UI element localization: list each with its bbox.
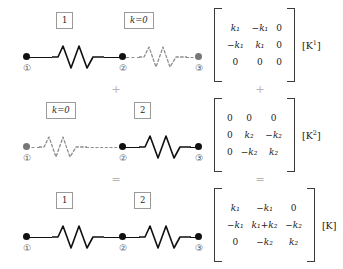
spring-coil-active xyxy=(52,42,104,72)
node-label-3: ③ xyxy=(191,154,207,163)
stiffness-matrix-element-1: k₁ −k₁ 0 −k₁ k₁ 0 0 0 0 [K1] xyxy=(214,8,321,82)
matrix-label-element-2: [K2] xyxy=(302,129,321,141)
matrix-row: 0 −k₂ k₂ xyxy=(223,234,306,251)
matrix-cell: −k₂ xyxy=(261,127,286,144)
spring-stiffness-assembly-figure: 1 k=0 ① ② ③ xyxy=(0,0,343,269)
matrix-cell: k₂ xyxy=(237,127,262,144)
node-label-2: ② xyxy=(115,64,131,73)
bracket-right-icon xyxy=(287,98,295,172)
element-box-left: 1 xyxy=(56,12,73,29)
bracket-right-icon xyxy=(307,188,315,262)
matrix-cell: k₂ xyxy=(261,144,286,161)
matrix-label-global: [K] xyxy=(322,219,337,231)
matrix-cell: −k₂ xyxy=(237,144,262,161)
matrix-label-element-1: [K1] xyxy=(302,39,321,51)
matrix-cell: 0 xyxy=(223,110,237,127)
matrix-label-close: ] xyxy=(333,220,337,231)
bracket-left-icon xyxy=(214,98,222,172)
matrix-cell: −k₁ xyxy=(248,200,282,217)
assembly-row-global: 1 2 ① ② ③ xyxy=(0,186,343,264)
stiffness-matrix-global: k₁ −k₁ 0 −k₁ k₁+k₂ −k₂ 0 −k₂ k₂ [K] xyxy=(214,188,336,262)
node-dot-3 xyxy=(195,53,202,60)
matrix-cell: 0 xyxy=(223,144,237,161)
assembly-row-element-1: 1 k=0 ① ② ③ xyxy=(0,6,343,84)
matrix-cell: 0 xyxy=(272,37,286,54)
node-dot-1 xyxy=(23,53,30,60)
node-dot-2 xyxy=(119,143,126,150)
matrix-cell: 0 xyxy=(248,54,273,71)
matrix-cell: −k₁ xyxy=(248,20,273,37)
node-label-1: ① xyxy=(19,154,35,163)
matrix-cell: k₁ xyxy=(248,37,273,54)
node-label-3: ③ xyxy=(191,64,207,73)
operator-plus-left: + xyxy=(106,84,126,95)
matrix-label-open: [K xyxy=(302,40,313,51)
matrix-row: 0 0 0 xyxy=(223,110,286,127)
element-box-right: 2 xyxy=(134,192,151,209)
node-label-1: ① xyxy=(19,64,35,73)
operator-equals-right: = xyxy=(250,174,270,185)
matrix-cell: 0 xyxy=(261,110,286,127)
matrix-row: −k₁ k₁ 0 xyxy=(223,37,286,54)
matrix-cell: 0 xyxy=(223,127,237,144)
matrix-row: k₁ −k₁ 0 xyxy=(223,200,306,217)
matrix-row: −k₁ k₁+k₂ −k₂ xyxy=(223,217,306,234)
matrix-cell: −k₁ xyxy=(223,37,248,54)
node-dot-2 xyxy=(119,233,126,240)
spring-diagram-element-1: 1 k=0 ① ② ③ xyxy=(8,6,208,84)
matrix-row: 0 −k₂ k₂ xyxy=(223,144,286,161)
node-label-1: ① xyxy=(19,244,35,253)
matrix-table: k₁ −k₁ 0 −k₁ k₁ 0 0 0 0 xyxy=(223,20,286,71)
matrix-cell: 0 xyxy=(272,54,286,71)
spring-coil-active xyxy=(139,132,191,162)
element-box-left: k=0 xyxy=(46,102,76,119)
matrix-label-open: [K xyxy=(302,130,313,141)
node-dot-2 xyxy=(119,53,126,60)
matrix-cell: −k₂ xyxy=(248,234,282,251)
matrix-label-close: ] xyxy=(317,40,321,51)
matrix-cell: k₁ xyxy=(223,200,248,217)
stiffness-matrix-element-2: 0 0 0 0 k₂ −k₂ 0 −k₂ k₂ [K2] xyxy=(214,98,321,172)
matrix-cell: 0 xyxy=(281,200,306,217)
node-dot-3 xyxy=(195,233,202,240)
matrix-row: 0 0 0 xyxy=(223,54,286,71)
matrix-cell: k₁ xyxy=(223,20,248,37)
wire-segment-mid-faint xyxy=(126,57,140,58)
matrix-cell: 0 xyxy=(237,110,262,127)
spring-coil-element-2 xyxy=(139,222,191,252)
spring-coil-inactive xyxy=(39,132,87,162)
node-label-2: ② xyxy=(115,244,131,253)
element-box-right: 2 xyxy=(134,102,151,119)
spring-coil-inactive xyxy=(139,42,187,72)
matrix-cell: k₂ xyxy=(281,234,306,251)
element-box-left: 1 xyxy=(56,192,73,209)
matrix-table: k₁ −k₁ 0 −k₁ k₁+k₂ −k₂ 0 −k₂ k₂ xyxy=(223,200,306,251)
bracket-left-icon xyxy=(214,188,222,262)
node-dot-1 xyxy=(23,143,30,150)
bracket-left-icon xyxy=(214,8,222,82)
matrix-label-open: [K xyxy=(322,220,333,231)
node-dot-3 xyxy=(195,143,202,150)
spring-diagram-global: 1 2 ① ② ③ xyxy=(8,186,208,264)
matrix-cell: −k₁ xyxy=(223,217,248,234)
spring-diagram-element-2: k=0 2 ① ② ③ xyxy=(8,96,208,174)
matrix-cell: 0 xyxy=(272,20,286,37)
matrix-table: 0 0 0 0 k₂ −k₂ 0 −k₂ k₂ xyxy=(223,110,286,161)
node-label-3: ③ xyxy=(191,244,207,253)
node-label-2: ② xyxy=(115,154,131,163)
bracket-right-icon xyxy=(287,8,295,82)
assembly-row-element-2: k=0 2 ① ② ③ xyxy=(0,96,343,174)
matrix-cell: 0 xyxy=(223,234,248,251)
operator-equals-left: = xyxy=(106,174,126,185)
matrix-label-close: ] xyxy=(317,130,321,141)
operator-plus-right: + xyxy=(250,84,270,95)
element-box-right: k=0 xyxy=(124,12,154,29)
matrix-row: 0 k₂ −k₂ xyxy=(223,127,286,144)
matrix-cell: −k₂ xyxy=(281,217,306,234)
matrix-cell: 0 xyxy=(223,54,248,71)
matrix-row: k₁ −k₁ 0 xyxy=(223,20,286,37)
spring-coil-element-1 xyxy=(52,222,104,252)
node-dot-1 xyxy=(23,233,30,240)
wire-segment-mid-faint xyxy=(86,147,122,148)
matrix-cell: k₁+k₂ xyxy=(248,217,282,234)
